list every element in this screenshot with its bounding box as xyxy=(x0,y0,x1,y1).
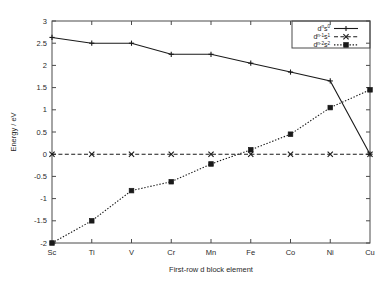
x-tick-label: Ti xyxy=(89,248,95,257)
data-point xyxy=(209,162,214,167)
x-tick-label: Cu xyxy=(365,248,375,257)
y-tick-label: -1.5 xyxy=(34,216,47,225)
data-point xyxy=(368,88,373,93)
legend-label: dns0 xyxy=(317,24,330,32)
data-point xyxy=(129,188,134,193)
plot-area: -2-1.5-1-0.500.511.522.53ScTiVCrMnFeCoNi… xyxy=(0,0,390,287)
x-tick-label: Ni xyxy=(327,248,334,257)
y-tick-label: 1 xyxy=(43,105,47,114)
y-tick-label: 2.5 xyxy=(37,39,47,48)
data-point xyxy=(248,147,253,152)
x-tick-label: Sc xyxy=(48,248,57,257)
x-axis-title: First-row d block element xyxy=(169,265,254,274)
data-point xyxy=(169,179,174,184)
y-tick-label: 1.5 xyxy=(37,83,47,92)
y-tick-label: -2 xyxy=(40,239,47,248)
x-tick-label: Fe xyxy=(246,248,255,257)
y-tick-label: 0.5 xyxy=(37,128,47,137)
y-tick-label: 3 xyxy=(43,17,47,26)
data-point xyxy=(288,132,293,137)
x-tick-label: Co xyxy=(286,248,296,257)
y-axis-title: Energy / eV xyxy=(9,112,18,151)
legend-box xyxy=(292,21,370,48)
data-point xyxy=(89,219,94,224)
y-tick-label: 2 xyxy=(43,61,47,70)
y-tick-label: 0 xyxy=(43,150,47,159)
y-tick-label: -0.5 xyxy=(34,172,47,181)
legend-marker xyxy=(344,43,349,48)
data-point xyxy=(328,105,333,110)
chart-figure: -2-1.5-1-0.500.511.522.53ScTiVCrMnFeCoNi… xyxy=(0,0,390,287)
x-tick-label: V xyxy=(129,248,134,257)
legend-label: dn-1s1 xyxy=(313,33,330,41)
legend-label: dn-2s2 xyxy=(313,41,330,49)
y-tick-label: -1 xyxy=(40,194,47,203)
data-point xyxy=(50,241,55,246)
x-tick-label: Cr xyxy=(167,248,175,257)
x-tick-label: Mn xyxy=(206,248,216,257)
